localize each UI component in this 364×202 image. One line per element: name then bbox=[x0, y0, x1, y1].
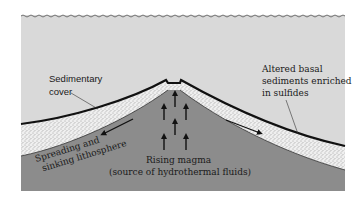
diagram-canvas: Sedimentary cover Altered basal sediment… bbox=[0, 0, 364, 202]
